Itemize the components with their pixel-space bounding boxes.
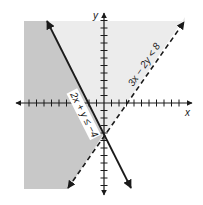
inequality-graph: y x 2x + y ≤ −4 3x − 2y < 8: [0, 0, 203, 205]
y-axis-label: y: [92, 10, 99, 21]
x-axis-label: x: [184, 107, 191, 118]
